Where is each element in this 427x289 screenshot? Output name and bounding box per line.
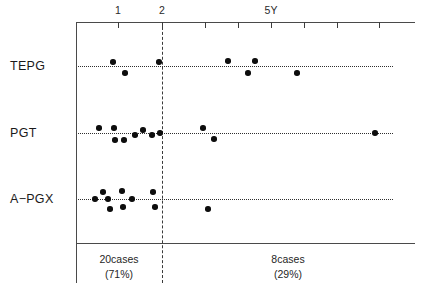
data-point bbox=[156, 59, 162, 65]
axis-tick-label: 1 bbox=[115, 4, 121, 16]
data-point bbox=[120, 204, 126, 210]
data-point bbox=[92, 196, 98, 202]
group-percent: (29%) bbox=[271, 267, 304, 282]
data-point bbox=[211, 136, 217, 142]
data-point bbox=[121, 137, 127, 143]
data-point bbox=[132, 132, 138, 138]
data-point bbox=[107, 206, 113, 212]
axis-tick bbox=[337, 22, 338, 28]
axis-tick bbox=[271, 22, 272, 28]
data-point bbox=[372, 130, 378, 136]
data-point bbox=[225, 58, 231, 64]
top-axis-line bbox=[76, 22, 415, 23]
data-point bbox=[140, 127, 146, 133]
group-case-count: 20cases bbox=[99, 253, 138, 265]
data-point bbox=[129, 196, 135, 202]
row-baseline bbox=[78, 199, 393, 200]
bottom-axis-line bbox=[76, 243, 415, 244]
group-case-count: 8cases bbox=[271, 253, 304, 265]
data-point bbox=[245, 70, 251, 76]
group-percent: (71%) bbox=[99, 267, 138, 282]
data-point bbox=[149, 132, 155, 138]
data-point bbox=[205, 206, 211, 212]
data-point bbox=[152, 204, 158, 210]
group-summary-label: 20cases(71%) bbox=[99, 252, 138, 282]
data-point bbox=[252, 58, 258, 64]
axis-tick bbox=[118, 22, 119, 28]
data-point bbox=[150, 189, 156, 195]
data-point bbox=[105, 196, 111, 202]
row-label-pgt: PGT bbox=[10, 126, 37, 140]
data-point bbox=[294, 70, 300, 76]
row-baseline bbox=[78, 133, 393, 134]
axis-tick bbox=[205, 22, 206, 28]
row-label-tepg: TEPG bbox=[10, 59, 45, 73]
data-point bbox=[111, 125, 117, 131]
data-point bbox=[110, 59, 116, 65]
data-point bbox=[200, 125, 206, 131]
group-summary-label: 8cases(29%) bbox=[271, 252, 304, 282]
axis-tick bbox=[379, 22, 380, 28]
axis-tick-label: 2 bbox=[159, 4, 165, 16]
data-point bbox=[100, 189, 106, 195]
axis-tick bbox=[238, 22, 239, 28]
scatter-chart-figure: 125Y TEPGPGTA−PGX 20cases(71%)8cases(29%… bbox=[0, 0, 427, 289]
two-year-divider-line bbox=[162, 22, 163, 283]
row-baseline bbox=[78, 66, 393, 67]
data-point bbox=[112, 137, 118, 143]
data-point bbox=[157, 130, 163, 136]
axis-tick-label: 5Y bbox=[265, 4, 278, 16]
data-point bbox=[122, 70, 128, 76]
axis-tick bbox=[304, 22, 305, 28]
data-point bbox=[96, 125, 102, 131]
row-label-apgx: A−PGX bbox=[10, 192, 54, 206]
data-point bbox=[119, 188, 125, 194]
